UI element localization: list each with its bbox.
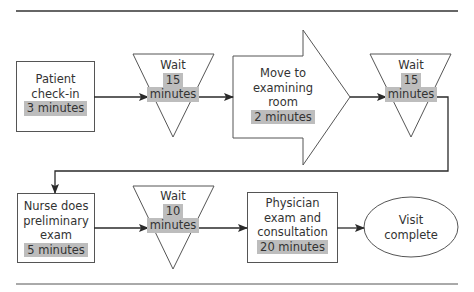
wait2-duration-unit: minutes bbox=[385, 87, 438, 102]
checkin-line-1: Patient bbox=[16, 72, 95, 87]
physician-label: Physician exam and consultation 20 minut… bbox=[247, 196, 338, 254]
checkin-duration: 3 minutes bbox=[24, 101, 88, 116]
move-line-3: room bbox=[240, 95, 326, 110]
move-line-2: examining bbox=[240, 81, 326, 96]
wait2-label: Wait 15 minutes bbox=[381, 58, 441, 102]
physician-duration: 20 minutes bbox=[257, 240, 328, 255]
wait2-title: Wait bbox=[381, 58, 441, 73]
wait3-label: Wait 10 minutes bbox=[143, 189, 203, 233]
wait2-duration-number: 15 bbox=[401, 73, 422, 88]
physician-line-3: consultation bbox=[247, 225, 338, 240]
complete-line-2: complete bbox=[371, 228, 451, 243]
checkin-label: Patient check-in 3 minutes bbox=[16, 72, 95, 116]
complete-line-1: Visit bbox=[371, 213, 451, 228]
physician-line-2: exam and bbox=[247, 211, 338, 226]
nurse-line-3: exam bbox=[17, 228, 95, 243]
nurse-line-2: preliminary bbox=[17, 214, 95, 229]
wait1-label: Wait 15 minutes bbox=[143, 58, 203, 102]
move-line-1: Move to bbox=[240, 66, 326, 81]
nurse-label: Nurse does preliminary exam 5 minutes bbox=[17, 199, 95, 257]
wait3-duration-unit: minutes bbox=[147, 218, 200, 233]
wait1-duration-number: 15 bbox=[163, 73, 184, 88]
nurse-line-1: Nurse does bbox=[17, 199, 95, 214]
physician-line-1: Physician bbox=[247, 196, 338, 211]
nurse-duration: 5 minutes bbox=[24, 243, 88, 258]
move-label: Move to examining room 2 minutes bbox=[240, 66, 326, 124]
wait3-duration-number: 10 bbox=[163, 204, 184, 219]
wait1-title: Wait bbox=[143, 58, 203, 73]
wait1-duration-unit: minutes bbox=[147, 87, 200, 102]
move-duration: 2 minutes bbox=[251, 110, 315, 125]
checkin-line-2: check-in bbox=[16, 87, 95, 102]
wait3-title: Wait bbox=[143, 189, 203, 204]
complete-label: Visit complete bbox=[371, 213, 451, 242]
